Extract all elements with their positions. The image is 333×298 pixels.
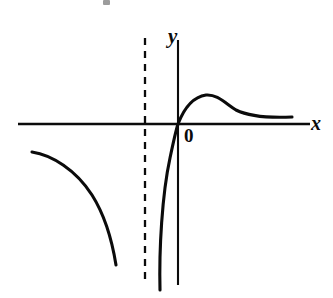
x-axis-label: x xyxy=(311,113,321,133)
function-graph-figure: y x 0 xyxy=(0,0,333,298)
graph-canvas xyxy=(0,0,333,298)
y-axis-label: y xyxy=(168,26,177,47)
curve-left-branch xyxy=(32,152,116,265)
origin-label: 0 xyxy=(184,126,194,145)
